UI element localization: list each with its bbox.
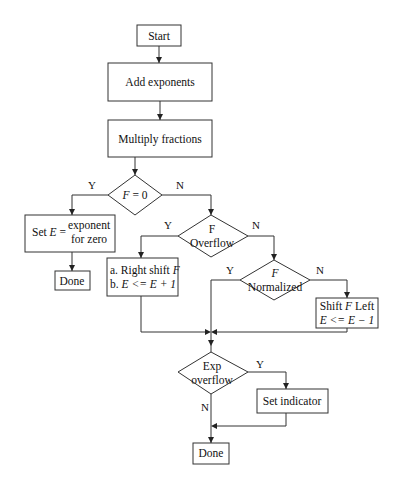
set-e-fraction: exponent for zero bbox=[68, 218, 110, 246]
shift-left-prefix: Shift bbox=[320, 300, 345, 312]
set-e-var: E bbox=[50, 226, 57, 238]
f-normalized-line1: F bbox=[271, 267, 278, 279]
edge-label-f-zero-no: N bbox=[176, 179, 184, 191]
add-exponents-text: Add exponents bbox=[125, 76, 194, 88]
f-overflow-label: F Overflow bbox=[190, 222, 234, 250]
set-e-prefix-text: Set bbox=[32, 226, 50, 238]
right-shift-var: F bbox=[173, 264, 180, 276]
exp-overflow-label: Exp overflow bbox=[191, 359, 233, 387]
shift-left-suffix: Left bbox=[352, 300, 374, 312]
right-shift-line1-text: a. Right shift bbox=[110, 264, 173, 276]
f-normalized-line2: Normalized bbox=[248, 280, 302, 294]
done-final-label: Done bbox=[199, 446, 224, 460]
done-final-text: Done bbox=[199, 447, 224, 459]
edge-label-overflow-yes: Y bbox=[164, 219, 172, 231]
edge-label-f-zero-yes: Y bbox=[88, 179, 96, 191]
set-indicator-label: Set indicator bbox=[263, 394, 321, 408]
done-zero-label: Done bbox=[60, 274, 85, 288]
right-shift-expr: E <= E + 1 bbox=[122, 278, 177, 290]
add-exponents-label: Add exponents bbox=[125, 75, 194, 89]
shift-left-expr: E <= E − 1 bbox=[320, 314, 375, 326]
f-zero-rest: = 0 bbox=[130, 189, 148, 201]
shift-left-line1: Shift F Left bbox=[320, 299, 375, 313]
f-zero-var: F bbox=[122, 189, 129, 201]
edge-label-normalized-yes: Y bbox=[226, 264, 234, 276]
multiply-fractions-text: Multiply fractions bbox=[118, 133, 201, 145]
multiply-fractions-label: Multiply fractions bbox=[118, 132, 201, 146]
done-zero-text: Done bbox=[60, 275, 85, 287]
start-text: Start bbox=[148, 30, 170, 42]
right-shift-line2-prefix: b. bbox=[110, 278, 122, 290]
set-e-line1: exponent bbox=[68, 218, 110, 232]
edge-label-normalized-no: N bbox=[316, 264, 324, 276]
exp-overflow-line1: Exp bbox=[191, 359, 233, 373]
set-indicator-text: Set indicator bbox=[263, 395, 321, 407]
f-zero-label: F = 0 bbox=[122, 188, 147, 202]
f-overflow-line1: F bbox=[190, 222, 234, 236]
right-shift-line2: b. E <= E + 1 bbox=[110, 277, 180, 291]
edge-label-exp-overflow-yes: Y bbox=[256, 358, 264, 370]
set-e-line2: for zero bbox=[68, 232, 110, 246]
shift-left-label: Shift F Left E <= E − 1 bbox=[320, 299, 375, 327]
flowchart-canvas: Start Add exponents Multiply fractions F… bbox=[0, 0, 402, 484]
f-normalized-label: F Normalized bbox=[248, 266, 302, 294]
set-e-label: Set E = exponent for zero bbox=[32, 218, 112, 246]
f-overflow-line2: Overflow bbox=[190, 236, 234, 250]
edge-label-overflow-no: N bbox=[252, 219, 260, 231]
right-shift-label: a. Right shift F b. E <= E + 1 bbox=[110, 263, 180, 291]
set-e-prefix: Set E = bbox=[32, 225, 66, 239]
right-shift-line1: a. Right shift F bbox=[110, 263, 180, 277]
start-label: Start bbox=[148, 29, 170, 43]
set-e-eq: = bbox=[57, 226, 66, 238]
edge-label-exp-overflow-no: N bbox=[201, 401, 209, 413]
exp-overflow-line2: overflow bbox=[191, 373, 233, 387]
